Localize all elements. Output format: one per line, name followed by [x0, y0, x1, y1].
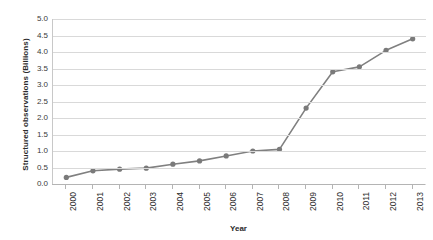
series-polyline [66, 39, 412, 178]
y-axis-tick-label: 0.5 [24, 164, 48, 172]
x-axis-line [52, 184, 425, 185]
y-axis-tick-label: 0.0 [24, 180, 48, 188]
data-point-marker [170, 162, 175, 167]
y-axis-tick-label: 3.0 [24, 81, 48, 89]
y-axis-tick-label: 5.0 [24, 15, 48, 23]
gridline [53, 168, 426, 169]
data-point-marker [197, 158, 202, 163]
gridline [53, 102, 426, 103]
x-axis-tick [412, 185, 413, 189]
x-axis-tick-label: 2009 [309, 192, 318, 226]
x-axis-tick [92, 185, 93, 189]
x-axis-tick-label: 2007 [256, 192, 265, 226]
gridline [53, 52, 426, 53]
x-axis-tick-label: 2003 [149, 192, 158, 226]
x-axis-tick-label: 2006 [229, 192, 238, 226]
y-axis-tick-label: 2.5 [24, 98, 48, 106]
line-chart: Structured observations (Billions) 5.04.… [0, 0, 433, 240]
y-axis-tick-label: 3.5 [24, 65, 48, 73]
data-point-marker [90, 168, 95, 173]
x-axis-tick [119, 185, 120, 189]
x-axis-tick [65, 185, 66, 189]
gridline [53, 135, 426, 136]
x-axis-tick [358, 185, 359, 189]
gridline [53, 118, 426, 119]
y-axis-tick-labels: 5.04.54.03.53.02.52.01.51.00.50.0 [22, 0, 48, 240]
x-axis-tick [252, 185, 253, 189]
x-axis-tick [385, 185, 386, 189]
gridline [53, 85, 426, 86]
x-axis-tick [199, 185, 200, 189]
x-axis-tick-label: 2011 [362, 192, 371, 226]
x-axis-tick [172, 185, 173, 189]
x-axis-tick [225, 185, 226, 189]
x-axis-tick [145, 185, 146, 189]
plot-area [52, 19, 426, 184]
x-axis-tick [305, 185, 306, 189]
data-point-marker [304, 106, 309, 111]
x-axis-tick-label: 2001 [96, 192, 105, 226]
gridline [53, 36, 426, 37]
x-axis-tick-label: 2008 [282, 192, 291, 226]
data-point-marker [64, 175, 69, 180]
x-axis-tick-label: 2010 [336, 192, 345, 226]
x-axis-tick-label: 2012 [389, 192, 398, 226]
gridline [53, 69, 426, 70]
data-point-marker [224, 153, 229, 158]
x-axis-tick-label: 2004 [176, 192, 185, 226]
x-axis-tick [278, 185, 279, 189]
y-axis-tick-label: 1.5 [24, 131, 48, 139]
data-point-marker [330, 69, 335, 74]
gridline [53, 19, 426, 20]
x-axis-tick-label: 2002 [123, 192, 132, 226]
y-axis-tick-label: 1.0 [24, 147, 48, 155]
x-axis-tick-label: 2005 [203, 192, 212, 226]
y-axis-tick-label: 2.0 [24, 114, 48, 122]
x-axis-tick-label: 2013 [416, 192, 425, 226]
x-axis-tick [332, 185, 333, 189]
y-axis-tick-label: 4.0 [24, 48, 48, 56]
data-point-marker [410, 36, 415, 41]
gridline [53, 151, 426, 152]
x-axis-tick-label: 2000 [69, 192, 78, 226]
y-axis-tick-label: 4.5 [24, 32, 48, 40]
